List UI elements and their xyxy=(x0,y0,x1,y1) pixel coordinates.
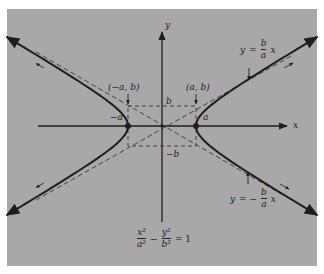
eq-var: x xyxy=(270,45,275,55)
b-label: b xyxy=(166,97,172,106)
asymptote-arrow-lr xyxy=(280,184,289,189)
a-label: a xyxy=(203,113,208,122)
eq-lhs: y xyxy=(240,45,245,55)
fraction-x2-over-a2: x² a² xyxy=(137,228,146,249)
minus-a-label: −a xyxy=(110,113,123,122)
eq-sign: = − xyxy=(239,194,257,204)
asymptote-arrow-ll xyxy=(36,183,44,188)
denominator: b² xyxy=(162,240,171,249)
upper-asymptote-equation: y = b a x xyxy=(240,39,275,60)
lower-asymptote-equation: y = − b a x xyxy=(230,188,276,209)
fraction-y2-over-b2: y² b² xyxy=(162,228,171,249)
corner-left-label: (−a, b) xyxy=(108,83,139,92)
x-axis-label: x xyxy=(293,121,298,130)
denominator: a² xyxy=(137,240,146,249)
numerator: b xyxy=(261,188,267,197)
fraction-b-over-a: b a xyxy=(261,188,267,209)
y-axis-label: y xyxy=(165,21,170,30)
corner-right-label: (a, b) xyxy=(186,83,210,92)
numerator: x² xyxy=(137,228,146,237)
hyperbola-equation: x² a² − y² b² = 1 xyxy=(137,228,191,249)
vertex-left xyxy=(125,123,131,129)
asymptote-arrow-ul xyxy=(36,64,44,69)
eq-var: x xyxy=(271,194,276,204)
numerator: b xyxy=(261,39,267,48)
denominator: a xyxy=(261,200,266,209)
numerator: y² xyxy=(162,228,171,237)
eq-lhs: y xyxy=(230,194,235,204)
fraction-b-over-a: b a xyxy=(261,39,267,60)
denominator: a xyxy=(261,51,266,60)
vertex-right xyxy=(193,123,199,129)
origin-dot xyxy=(161,125,164,128)
minus-b-label: −b xyxy=(166,150,179,159)
asymptote-arrow-ur xyxy=(284,63,293,68)
equals-one: = 1 xyxy=(175,234,191,244)
minus-sign: − xyxy=(150,234,158,244)
eq-sign: = xyxy=(249,45,257,55)
